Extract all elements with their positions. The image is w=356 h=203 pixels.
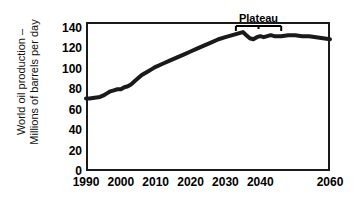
y-tick-60: 60 <box>48 104 82 116</box>
y-tick-100: 100 <box>48 63 82 75</box>
x-tick-2030: 2030 <box>212 176 239 188</box>
x-tick-2020: 2020 <box>177 176 204 188</box>
oil-production-chart: World oil production – Millions of barre… <box>0 0 356 203</box>
y-tick-120: 120 <box>48 42 82 54</box>
y-axis-tick-labels: 020406080100120140 <box>48 0 82 203</box>
plateau-annotation-label: Plateau <box>239 12 278 24</box>
y-tick-40: 40 <box>48 124 82 136</box>
x-tick-2000: 2000 <box>107 176 134 188</box>
plot-area <box>86 22 330 171</box>
y-tick-140: 140 <box>48 22 82 34</box>
y-tick-80: 80 <box>48 83 82 95</box>
x-tick-2060: 2060 <box>317 176 344 188</box>
y-axis-title-line-2: Millions of barrels per day <box>28 19 41 144</box>
x-tick-2040: 2040 <box>247 176 274 188</box>
x-tick-1990: 1990 <box>73 176 100 188</box>
x-axis-tick-labels: 1990200020102020203020402060 <box>0 176 356 194</box>
y-axis-title: World oil production – Millions of barre… <box>8 0 48 172</box>
y-axis-title-line-1: World oil production – <box>15 29 28 135</box>
y-tick-20: 20 <box>48 145 82 157</box>
x-tick-2010: 2010 <box>142 176 169 188</box>
